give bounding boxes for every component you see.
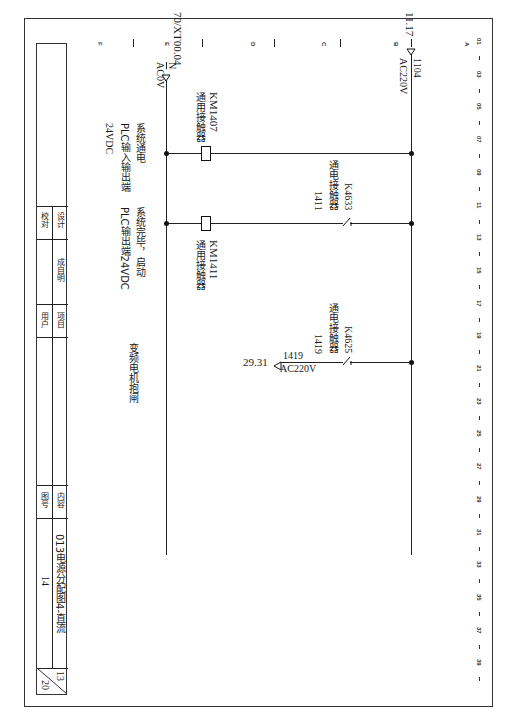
neutral-voltage-label: AC0V	[155, 62, 165, 88]
supply-bus-line	[411, 50, 412, 555]
row-letter: D	[250, 42, 256, 46]
column-tick	[479, 187, 480, 191]
column-number: 29	[476, 496, 482, 503]
note-rung-1-line-3: 24VDC	[104, 123, 114, 154]
total-sheets: 20	[40, 680, 50, 690]
supply-voltage-label: AC220V	[398, 58, 408, 94]
output-voltage-label: AC220V	[280, 363, 316, 374]
column-tick	[479, 677, 480, 681]
column-number: 03	[476, 71, 482, 78]
row-letter: A	[464, 42, 470, 46]
coil-km1407-tag: KM1407	[208, 92, 219, 132]
column-tick	[479, 612, 480, 616]
drawing-no-label: 图号	[39, 492, 47, 508]
tb-row-line	[37, 304, 68, 305]
rung-2-wire-left	[166, 223, 343, 224]
column-tick	[479, 220, 480, 224]
contact-k4625-tag: K4625	[343, 326, 353, 353]
column-tick	[479, 579, 480, 583]
rung-1-junction-left	[164, 151, 169, 156]
check-label: 校对	[39, 212, 47, 228]
column-tick	[479, 121, 480, 125]
rung-2-junction-right	[409, 221, 414, 226]
row-letter: C	[321, 42, 327, 46]
column-tick	[479, 514, 480, 518]
content-value: 013电源分配图4-直流	[54, 534, 64, 633]
column-number: 13	[476, 234, 482, 241]
column-number: 27	[476, 463, 482, 470]
column-number: 25	[476, 430, 482, 437]
column-number: 09	[476, 169, 482, 176]
tb-divider	[52, 206, 53, 668]
neutral-wire-label: N	[167, 62, 177, 69]
column-number: 21	[476, 365, 482, 372]
column-tick	[479, 252, 480, 256]
drawing-no-value: 14	[40, 576, 50, 586]
note-rung-2-line-1: 系统完毕，启动	[134, 207, 144, 277]
column-tick	[479, 318, 480, 322]
tb-row-line	[37, 239, 68, 240]
output-ref-label: 29.31	[243, 356, 268, 368]
row-letter: F	[97, 42, 103, 46]
project-label: 项目	[55, 312, 63, 328]
neutral-bus-line	[166, 75, 167, 555]
tb-row-line	[37, 518, 68, 519]
contact-k4633-icon	[340, 214, 354, 232]
column-tick	[479, 154, 480, 158]
rung-1-junction-right	[409, 151, 414, 156]
column-tick	[479, 547, 480, 551]
row-divider-mark	[133, 39, 134, 47]
column-tick	[479, 481, 480, 485]
column-number: 37	[476, 627, 482, 634]
title-block: 设计 校对 成自明 项目 用户 内容 图号 013电源分配图4-直流 14 13…	[36, 43, 67, 695]
row-divider-mark	[340, 39, 341, 47]
rung-3-wire-right	[350, 362, 411, 363]
column-tick	[479, 350, 480, 354]
note-rung-1-line-1: 系统通电	[134, 123, 144, 163]
rung-2-wire-right	[350, 223, 411, 224]
column-number: 19	[476, 332, 482, 339]
contact-k4633-desc: 通电接触器	[327, 160, 337, 210]
design-value: 成自明	[55, 258, 63, 282]
row-divider-mark	[202, 39, 203, 47]
supply-terminal-arrow-icon	[406, 48, 416, 55]
supply-wire-label: 1104	[412, 58, 422, 78]
row-divider-mark	[411, 39, 412, 47]
column-tick	[479, 448, 480, 452]
neutral-ref-label: 70/XT00.04	[172, 12, 183, 65]
column-number: 33	[476, 561, 482, 568]
sheet-number: 13	[55, 671, 65, 681]
column-number: 01	[476, 38, 482, 45]
tb-row-line	[37, 485, 68, 486]
coil-km1407-icon	[201, 146, 211, 161]
column-number: 05	[476, 103, 482, 110]
column-tick	[479, 56, 480, 60]
supply-ref-label: 11.17	[404, 12, 415, 36]
note-rung-2-line-2: PLC输出端24VDC	[119, 207, 129, 290]
tb-row-line	[37, 337, 68, 338]
column-number: 11	[476, 202, 482, 208]
column-tick	[479, 645, 480, 649]
contact-k4633-wire: 1411	[313, 191, 323, 211]
design-label: 设计	[55, 212, 63, 228]
contact-k4633-tag: K4633	[343, 183, 353, 210]
column-number: 23	[476, 398, 482, 405]
coil-km1407-desc: 通用接触器	[194, 92, 204, 142]
row-letter: B	[393, 42, 399, 46]
coil-km1411-tag: KM1411	[208, 240, 219, 279]
contact-k4625-desc: 通电接触器	[327, 303, 337, 353]
column-number: 17	[476, 300, 482, 307]
column-number: 15	[476, 267, 482, 274]
column-number: 35	[476, 594, 482, 601]
user-label: 用户	[39, 312, 47, 328]
column-number: 07	[476, 136, 482, 143]
column-tick	[479, 285, 480, 289]
rung-3-junction-right	[409, 360, 414, 365]
contact-k4625-icon	[340, 353, 354, 371]
rung-2-junction-left	[164, 221, 169, 226]
coil-km1411-icon	[201, 216, 211, 231]
column-number: 39	[476, 659, 482, 666]
tb-row-line	[37, 206, 68, 207]
column-tick	[479, 89, 480, 93]
note-rung-3-line-1: 变频电机抱闸	[127, 343, 137, 403]
